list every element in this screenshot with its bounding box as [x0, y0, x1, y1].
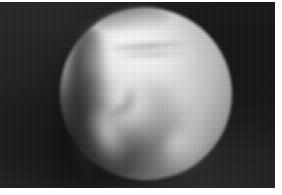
plate-margin-right [275, 0, 282, 195]
figure-plate [0, 0, 282, 195]
plate-margin-bottom [0, 188, 282, 195]
astronomical-image-frame [0, 2, 275, 188]
